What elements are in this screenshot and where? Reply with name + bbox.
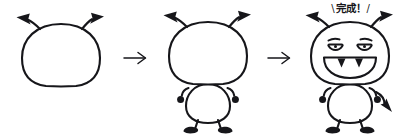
- caption-slash-right: /: [366, 1, 371, 17]
- left-foot: [326, 127, 341, 134]
- completion-caption: \完成！/: [300, 0, 401, 18]
- caption-text: 完成！: [336, 2, 366, 14]
- right-antenna: [229, 17, 239, 27]
- left-arm: [182, 88, 189, 96]
- head-outline: [169, 22, 247, 85]
- step-separator-2: [262, 0, 304, 138]
- right-antenna: [371, 17, 381, 27]
- body-outline: [328, 84, 372, 123]
- left-pupil: [334, 45, 337, 48]
- head-outline: [22, 24, 100, 87]
- right-pupil: [363, 45, 366, 48]
- caption-slash-left: \: [330, 1, 335, 17]
- left-antenna: [28, 20, 41, 30]
- right-arm: [370, 88, 377, 96]
- tail-arrowhead: [381, 99, 393, 112]
- right-hand: [374, 96, 381, 103]
- right-hand: [232, 96, 239, 103]
- right-foot: [360, 127, 375, 134]
- left-hand: [319, 96, 326, 103]
- left-arm: [324, 88, 331, 96]
- arrow-right-icon: [124, 53, 146, 64]
- body-outline: [186, 84, 230, 123]
- tutorial-step-3-final: [300, 0, 401, 138]
- right-arm: [228, 88, 235, 96]
- left-foot: [184, 127, 199, 134]
- right-foot: [218, 127, 233, 134]
- left-hand: [177, 96, 184, 103]
- right-antenna: [82, 19, 92, 29]
- drawing-tutorial: \完成！/: [0, 0, 401, 138]
- left-antenna: [175, 18, 188, 28]
- left-antenna: [317, 18, 330, 28]
- tutorial-step-2: [152, 0, 264, 138]
- arrow-right-icon: [268, 53, 290, 64]
- tutorial-step-1: [0, 0, 122, 138]
